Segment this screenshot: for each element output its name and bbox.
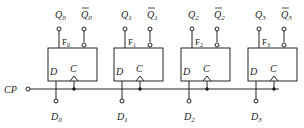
c-pin-1: C (136, 63, 143, 74)
register-diagram: CP Q0 Q0 (0, 0, 304, 128)
f1-label: F1 (128, 37, 136, 48)
q3-label: Q3 (255, 9, 266, 22)
f2-label: F2 (195, 37, 203, 48)
clock-terminal (26, 87, 30, 91)
d-pin-1: D (115, 66, 124, 77)
d-pin-3: D (249, 66, 258, 77)
q2bar-label: Q2 (214, 9, 225, 22)
q3bar-label: Q3 (281, 9, 292, 22)
f3-label: F3 (262, 37, 270, 48)
d3-input-label: D3 (250, 111, 262, 124)
d0-input-label: D0 (50, 111, 62, 124)
f0-label: F0 (62, 37, 70, 48)
c-pin-2: C (203, 63, 210, 74)
q2-label: Q2 (188, 9, 199, 22)
d1-input-label: D1 (116, 111, 128, 124)
c-pin-3: C (270, 63, 277, 74)
q1bar-label: Q1 (147, 9, 158, 22)
d-pin-0: D (49, 66, 58, 77)
d-pin-2: D (182, 66, 191, 77)
d2-input-label: D2 (183, 111, 195, 124)
q0-label: Q0 (55, 9, 66, 22)
clock-label: CP (4, 84, 17, 95)
c-pin-0: C (70, 63, 77, 74)
q1-label: Q1 (121, 9, 132, 22)
q0bar-label: Q0 (81, 9, 92, 22)
